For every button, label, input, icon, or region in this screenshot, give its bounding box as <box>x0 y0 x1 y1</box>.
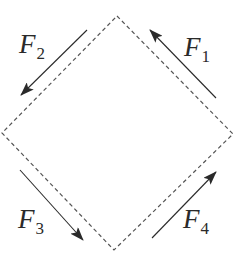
force-f3-label: F3 <box>17 204 44 238</box>
force-square-diagram: F1 F2 F3 F4 <box>0 0 244 255</box>
force-f1: F1 <box>150 30 216 98</box>
force-f2: F2 <box>18 29 87 95</box>
force-f1-label: F1 <box>183 32 210 66</box>
force-f4-label: F4 <box>182 204 210 238</box>
force-f2-label: F2 <box>18 29 45 63</box>
force-f3: F3 <box>17 170 83 240</box>
